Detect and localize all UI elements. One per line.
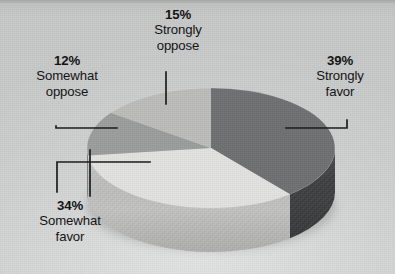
slice-label-somewhat-oppose: 12% Somewhat oppose <box>4 53 130 99</box>
slice-name-somewhat-oppose-line2: oppose <box>4 84 130 99</box>
slice-percent-somewhat-favor: 34% <box>8 198 132 213</box>
slice-percent-somewhat-oppose: 12% <box>4 53 130 68</box>
slice-name-strongly-favor-line2: favor <box>288 84 392 99</box>
slice-label-strongly-oppose: 15% Strongly oppose <box>118 7 238 53</box>
slice-name-somewhat-oppose-line1: Somewhat <box>4 68 130 83</box>
slice-name-strongly-oppose-line2: oppose <box>118 38 238 53</box>
slice-name-strongly-favor-line1: Strongly <box>288 68 392 83</box>
slice-label-strongly-favor: 39% Strongly favor <box>288 53 392 99</box>
slice-name-somewhat-favor-line2: favor <box>8 229 132 244</box>
slice-label-somewhat-favor: 34% Somewhat favor <box>8 198 132 244</box>
slice-name-strongly-oppose-line1: Strongly <box>118 22 238 37</box>
slice-percent-strongly-favor: 39% <box>288 53 392 68</box>
top-edge-band <box>0 0 395 4</box>
slice-percent-strongly-oppose: 15% <box>118 7 238 22</box>
chart-canvas: 15% Strongly oppose 12% Somewhat oppose … <box>0 0 395 274</box>
slice-name-somewhat-favor-line1: Somewhat <box>8 213 132 228</box>
